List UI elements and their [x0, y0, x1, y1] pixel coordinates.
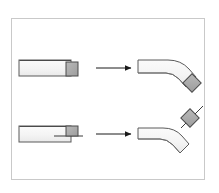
beam-bending-diagram	[0, 0, 219, 193]
top-before-beam	[19, 60, 71, 76]
bottom-before-beam	[19, 126, 71, 142]
top-before-beam-group	[19, 60, 78, 76]
bottom-before-beam-group	[19, 126, 83, 142]
bottom-before-end-block	[66, 126, 78, 136]
row-bottom	[19, 106, 203, 153]
row-top	[19, 60, 201, 92]
bottom-after-bent-beam-group	[138, 106, 203, 153]
bottom-after-end-block	[181, 109, 199, 127]
top-after-bent-beam-group	[138, 60, 201, 92]
top-before-end-block	[66, 62, 78, 76]
bottom-after-bent-beam	[138, 128, 189, 153]
